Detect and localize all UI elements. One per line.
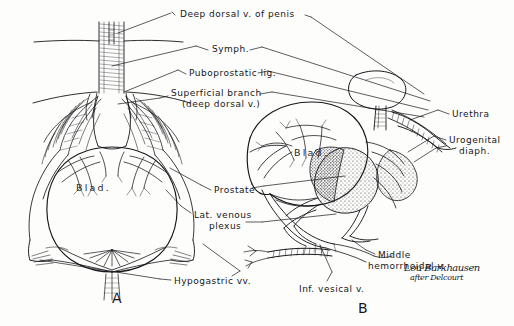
label-urethra: Urethra <box>452 109 490 120</box>
label-deep-dorsal-vein-of-penis: Deep dorsal v. of penis <box>180 9 295 20</box>
label-inferior-vesical-vein: Inf. vesical v. <box>299 284 364 295</box>
label-superficial-branch: Superficial branch <box>171 88 262 99</box>
label-urogenital-diaphragm: Urogenital <box>449 135 501 146</box>
label-lateral-venous-plexus-sub: plexus <box>209 221 241 232</box>
signature-line-2: after Delcourt <box>410 273 480 282</box>
panel-label-b: B <box>358 300 368 316</box>
label-hypogastric-veins: Hypogastric vv. <box>174 276 251 287</box>
panel-label-a: A <box>112 290 122 306</box>
label-symphysis: Symph. <box>212 44 249 55</box>
label-bladder-b: Blad. <box>294 147 329 158</box>
label-urogenital-diaphragm-sub: diaph. <box>459 146 490 157</box>
label-bladder-a: Blad. <box>76 182 111 193</box>
signature-line-1: Lou Barkhausen <box>404 262 480 273</box>
label-puboprostatic-ligament: Puboprostatic lig. <box>189 68 276 79</box>
label-prostate: Prostate <box>214 185 255 196</box>
illustration-page: Deep dorsal v. of penis Symph. Puboprost… <box>0 0 514 326</box>
label-middle-hemorrhoidal-vein: Middle <box>378 250 411 261</box>
artist-signature: Lou Barkhausen after Delcourt <box>404 262 480 282</box>
label-superficial-branch-sub: (deep dorsal v.) <box>182 99 260 110</box>
label-lateral-venous-plexus: Lat. venous <box>194 210 252 221</box>
